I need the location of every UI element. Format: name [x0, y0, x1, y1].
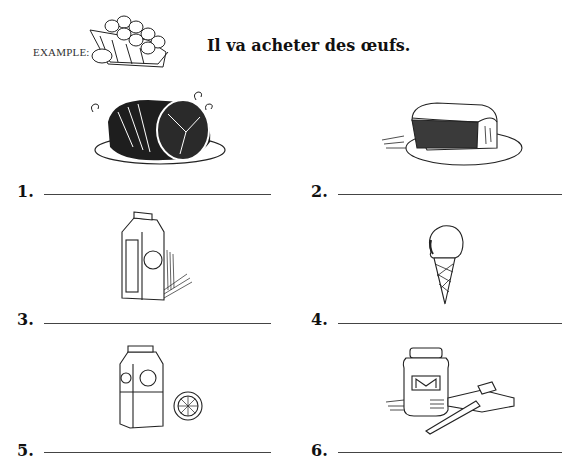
item-number-1: 1. — [17, 182, 34, 201]
bread-loaf-icon — [382, 100, 522, 170]
example-sentence: Il va acheter des œufs. — [207, 36, 410, 55]
item-number-5: 5. — [17, 441, 34, 460]
item-number-6: 6. — [311, 441, 328, 460]
ham-roast-icon — [88, 92, 228, 167]
example-label: EXAMPLE: — [33, 46, 90, 58]
item-number-3: 3. — [17, 310, 34, 329]
answer-line-1[interactable] — [44, 194, 271, 195]
ice-cream-cone-icon — [425, 222, 465, 304]
answer-line-6[interactable] — [338, 452, 562, 453]
egg-carton-icon — [88, 12, 178, 67]
jam-jar-with-toast-icon — [386, 346, 526, 434]
milk-carton-icon — [112, 210, 202, 310]
answer-line-4[interactable] — [338, 323, 562, 324]
answer-line-5[interactable] — [44, 452, 271, 453]
item-number-4: 4. — [311, 310, 328, 329]
orange-juice-carton-icon — [118, 346, 208, 431]
answer-line-2[interactable] — [338, 194, 562, 195]
answer-line-3[interactable] — [44, 323, 271, 324]
item-number-2: 2. — [311, 182, 328, 201]
